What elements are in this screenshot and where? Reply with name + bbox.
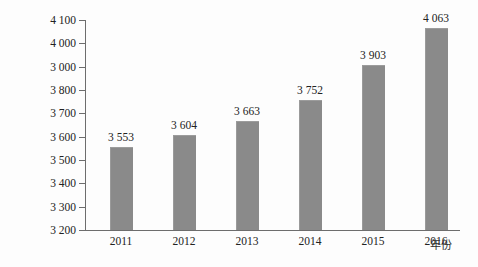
bar bbox=[299, 100, 322, 230]
y-axis-line bbox=[85, 20, 86, 231]
y-axis-tick-label: 4 100 bbox=[50, 14, 76, 26]
y-axis-tick-label: 3 700 bbox=[50, 107, 76, 119]
y-axis-tick-mark bbox=[79, 20, 85, 21]
y-axis-tick-mark bbox=[79, 160, 85, 161]
y-axis-tick-label: 3 300 bbox=[50, 201, 76, 213]
bar-value-label: 3 604 bbox=[171, 119, 197, 131]
x-axis-title: 年份 bbox=[430, 236, 452, 252]
bar bbox=[425, 28, 448, 230]
y-axis-tick-label: 3 800 bbox=[50, 84, 76, 96]
y-axis-tick-mark bbox=[79, 43, 85, 44]
y-axis-tick-label: 3 000 bbox=[50, 61, 76, 73]
y-axis-tick-label: 4 000 bbox=[50, 37, 76, 49]
x-axis-line bbox=[85, 230, 460, 231]
y-axis-tick-label: 3 600 bbox=[50, 131, 76, 143]
bar-value-label: 4 063 bbox=[423, 12, 449, 24]
x-axis-tick-label: 2011 bbox=[110, 235, 133, 247]
x-axis-tick-label: 2012 bbox=[173, 235, 196, 247]
y-axis-tick-mark bbox=[79, 230, 85, 231]
y-axis-tick-mark bbox=[79, 113, 85, 114]
y-axis-tick-label: 3 200 bbox=[50, 224, 76, 236]
x-axis-tick-label: 2014 bbox=[299, 235, 322, 247]
y-axis-tick-label: 3 500 bbox=[50, 154, 76, 166]
y-axis-tick-mark bbox=[79, 137, 85, 138]
bar-value-label: 3 553 bbox=[108, 131, 134, 143]
x-axis-tick-label: 2013 bbox=[236, 235, 259, 247]
bar-value-label: 3 663 bbox=[234, 105, 260, 117]
y-axis-tick-mark bbox=[79, 67, 85, 68]
bar bbox=[110, 147, 133, 230]
x-axis-tick-label: 2015 bbox=[362, 235, 385, 247]
bar bbox=[173, 135, 196, 230]
y-axis-tick-mark bbox=[79, 90, 85, 91]
y-axis-tick-mark bbox=[79, 207, 85, 208]
y-axis-tick-label: 3 400 bbox=[50, 177, 76, 189]
bar-value-label: 3 903 bbox=[360, 49, 386, 61]
bar bbox=[236, 121, 259, 230]
plot-area: 4 1004 0003 0003 8003 7003 6003 5003 400… bbox=[85, 20, 460, 230]
bar-value-label: 3 752 bbox=[297, 84, 323, 96]
bar bbox=[362, 65, 385, 230]
bar-chart: 销售额/亿美元 4 1004 0003 0003 8003 7003 6003 … bbox=[0, 0, 478, 267]
y-axis-tick-mark bbox=[79, 183, 85, 184]
